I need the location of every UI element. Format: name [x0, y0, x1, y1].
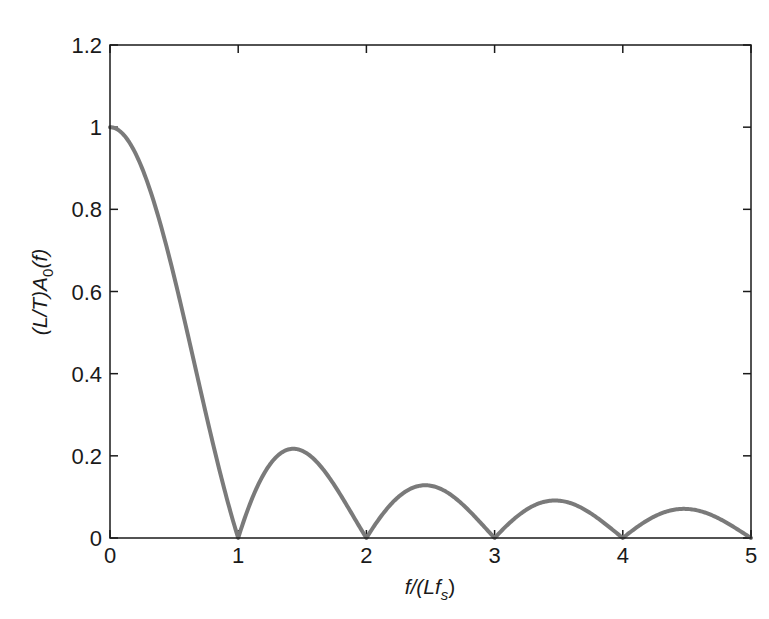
x-tick-labels: 012345 — [104, 543, 757, 568]
y-tick-label: 1.2 — [71, 33, 102, 58]
x-tick-label: 3 — [488, 543, 500, 568]
x-tick-label: 4 — [617, 543, 629, 568]
y-tick-label: 0.4 — [71, 362, 102, 387]
y-tick-label: 0.8 — [71, 197, 102, 222]
x-axis-label: f/(Lfs) — [405, 575, 456, 603]
axis-ticks — [110, 45, 751, 538]
data-series-curve — [110, 127, 751, 538]
y-tick-label: 1 — [90, 115, 102, 140]
x-tick-label: 5 — [745, 543, 757, 568]
sinc-magnitude-chart: 012345 00.20.40.60.811.2 f/(Lfs) (L/T)A0… — [0, 0, 769, 619]
y-tick-label: 0.2 — [71, 444, 102, 469]
y-tick-label: 0.6 — [71, 280, 102, 305]
y-axis-label: (L/T)A0(f) — [28, 249, 56, 336]
x-tick-label: 2 — [360, 543, 372, 568]
x-tick-label: 1 — [232, 543, 244, 568]
plot-frame — [110, 45, 751, 538]
y-tick-label: 0 — [90, 526, 102, 551]
x-tick-label: 0 — [104, 543, 116, 568]
y-tick-labels: 00.20.40.60.811.2 — [71, 33, 102, 551]
